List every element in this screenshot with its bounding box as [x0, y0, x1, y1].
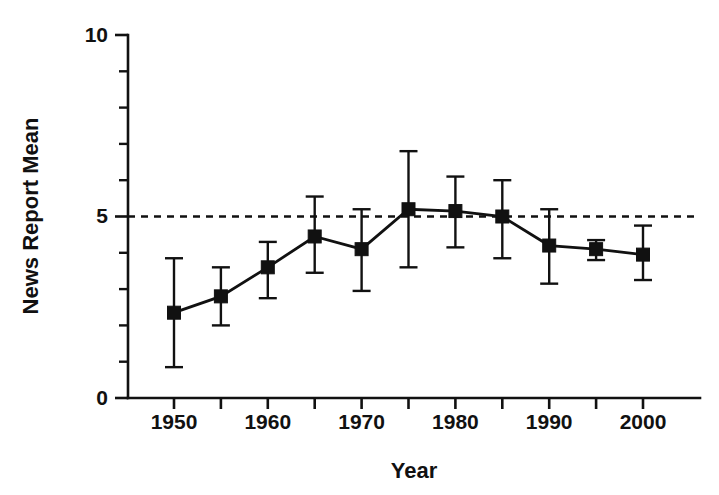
data-point-1975	[402, 203, 415, 216]
y-axis-tick-labels: 0510	[85, 23, 109, 409]
x-axis-title: Year	[391, 458, 438, 483]
y-axis-title: News Report Mean	[18, 118, 43, 315]
x-tick-label-1970: 1970	[338, 410, 385, 433]
x-axis-ticks	[174, 398, 643, 409]
data-point-1950	[168, 306, 181, 319]
data-point-1995	[590, 243, 603, 256]
data-point-1985	[496, 210, 509, 223]
y-tick-label-0: 0	[96, 386, 108, 409]
data-point-1955	[214, 290, 227, 303]
data-point-1990	[543, 239, 556, 252]
error-bar-group	[165, 151, 652, 367]
y-tick-label-5: 5	[96, 204, 108, 227]
news-report-mean-line-chart: 0510 195019601970198019902000 Year News …	[0, 0, 719, 495]
x-axis-tick-labels: 195019601970198019902000	[151, 410, 667, 433]
data-point-2000	[637, 248, 650, 261]
data-point-1960	[261, 261, 274, 274]
x-tick-label-1980: 1980	[432, 410, 479, 433]
y-tick-label-10: 10	[85, 23, 108, 46]
y-axis-ticks	[115, 35, 128, 398]
x-tick-label-1990: 1990	[526, 410, 573, 433]
x-tick-label-1950: 1950	[151, 410, 198, 433]
chart-figure: 0510 195019601970198019902000 Year News …	[0, 0, 719, 495]
data-point-1965	[308, 230, 321, 243]
x-tick-label-1960: 1960	[244, 410, 291, 433]
x-tick-label-2000: 2000	[620, 410, 667, 433]
data-point-1980	[449, 205, 462, 218]
data-point-1970	[355, 243, 368, 256]
